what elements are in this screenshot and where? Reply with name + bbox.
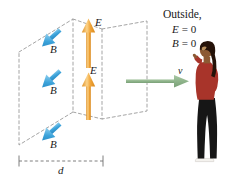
e-arrow-upper-shaft	[86, 30, 91, 68]
e-field-label-1: E	[95, 17, 102, 28]
velocity-arrow-shaft	[126, 79, 177, 83]
observer-pants	[197, 98, 217, 159]
figure-canvas: B B B E E v d Outside, E= 0 B= 0	[0, 0, 237, 181]
b-field-label-3: B	[50, 139, 57, 150]
outside-e-variable: E	[172, 23, 179, 35]
velocity-arrow	[126, 75, 189, 87]
back-plane	[102, 21, 147, 119]
velocity-label: v	[178, 66, 182, 76]
outside-title-label: Outside,	[163, 9, 202, 21]
e-arrow-upper-head	[82, 19, 95, 33]
outside-e-value: = 0	[179, 23, 196, 35]
outside-b-equation: B= 0	[172, 38, 196, 49]
b-field-label-2: B	[50, 85, 57, 96]
e-field-arrow-lower	[82, 73, 95, 121]
back-plane-outline	[102, 21, 147, 119]
velocity-arrow-head	[174, 75, 189, 87]
e-field-arrow-upper	[82, 19, 95, 69]
outside-b-value: = 0	[179, 37, 196, 49]
observer-shirt	[196, 61, 216, 99]
e-arrow-lower-shaft	[86, 84, 91, 120]
outside-e-equation: E= 0	[172, 24, 196, 35]
diagram-svg	[0, 0, 237, 181]
outside-b-variable: B	[172, 37, 179, 49]
observer-neck	[204, 57, 211, 64]
observer-person	[193, 41, 219, 161]
e-field-label-2: E	[90, 65, 97, 76]
b-field-label-1: B	[50, 44, 57, 55]
thickness-label: d	[58, 165, 64, 176]
observer-shoes	[195, 158, 214, 161]
